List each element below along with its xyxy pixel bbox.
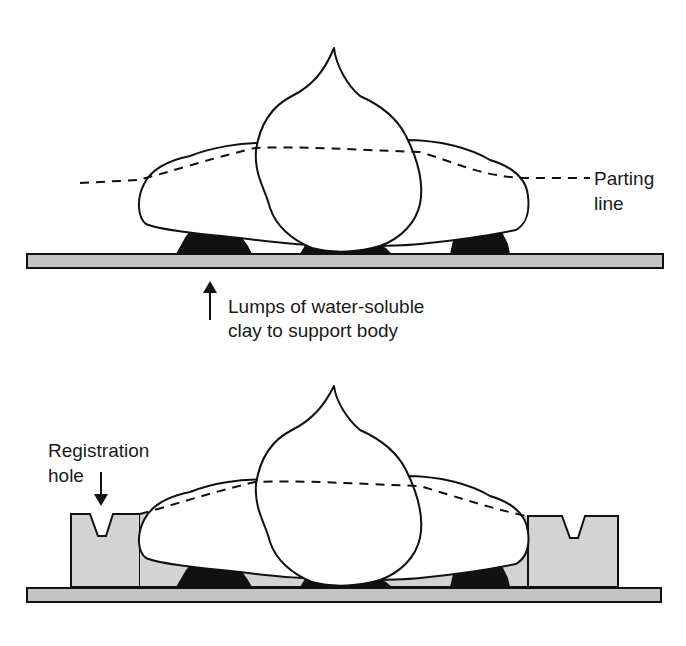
- base-board-top: [27, 254, 663, 268]
- top-stage: [27, 48, 663, 320]
- base-board-bottom: [27, 588, 661, 602]
- arrow-up-icon: [203, 281, 217, 293]
- bottom-stage: [27, 386, 661, 602]
- lumps-label-1: Lumps of water-soluble: [228, 296, 424, 318]
- registration-hole-label-1: Registration: [48, 440, 149, 462]
- registration-hole-label-2: hole: [48, 465, 84, 487]
- lumps-label-2: clay to support body: [228, 320, 398, 342]
- parting-line-label-2: line: [594, 193, 624, 215]
- clay-bed-right: [528, 516, 618, 587]
- body-center: [256, 48, 421, 252]
- clay-bed: [71, 514, 140, 587]
- arrow-down-icon: [94, 494, 108, 506]
- parting-line-label-1: Parting: [594, 168, 654, 190]
